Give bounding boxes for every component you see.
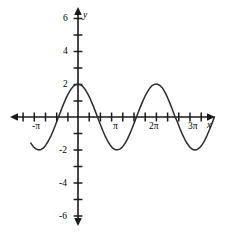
coordinate-plane-plot xyxy=(0,0,225,232)
x-axis-label: x xyxy=(207,120,211,130)
x-tick-label-3pi: 3π xyxy=(188,121,198,131)
y-tick-label-4: 4 xyxy=(63,46,68,56)
x-axis-left-arrow-icon xyxy=(10,113,18,121)
y-tick-label-minus-2: -2 xyxy=(59,145,67,155)
x-tick-label-2pi: 2π xyxy=(149,121,159,131)
y-tick-label-6: 6 xyxy=(63,13,68,23)
y-tick-label-2: 2 xyxy=(63,79,68,89)
y-tick-label-minus-6: -6 xyxy=(59,211,67,221)
y-axis-bottom-arrow-icon xyxy=(74,218,82,226)
y-tick-label-minus-4: -4 xyxy=(59,178,67,188)
x-tick-label-pi: π xyxy=(113,121,118,131)
graph-figure: -π π 2π 3π 6 4 2 -2 -4 -6 y x xyxy=(0,0,225,232)
y-axis-label: y xyxy=(83,10,87,20)
y-axis-top-arrow-icon xyxy=(74,7,82,15)
x-tick-label-minus-pi: -π xyxy=(32,121,40,131)
